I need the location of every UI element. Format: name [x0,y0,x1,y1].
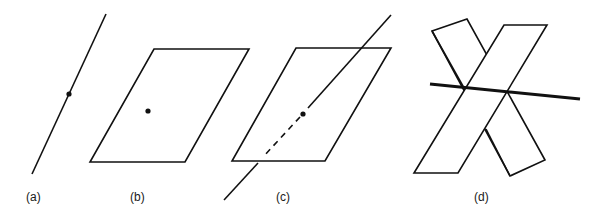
point-c [300,111,305,116]
line-c-hidden-dashed [263,117,300,157]
label-a: (a) [26,190,41,204]
panel-c [224,15,391,200]
panel-b [90,49,249,162]
label-d: (d) [474,190,489,204]
label-c: (c) [276,190,290,204]
line-c-visible-upper [308,15,391,108]
label-b: (b) [130,190,145,204]
panel-a [32,14,106,174]
panel-d [414,19,580,176]
plane-b [90,49,249,162]
line-c-visible-lower [224,163,258,200]
figure-canvas [0,0,605,217]
point-a [66,91,71,96]
point-b [145,108,150,113]
